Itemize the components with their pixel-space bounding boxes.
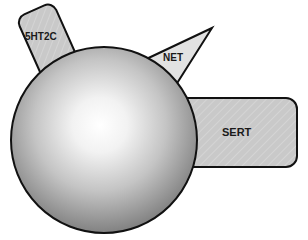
cell-sphere [11, 47, 197, 233]
diagram-canvas: SERT 5HT2C NET [0, 0, 308, 240]
diagram-svg: SERT 5HT2C NET [0, 0, 308, 240]
5ht2c-label: 5HT2C [25, 31, 57, 42]
sert-label: SERT [222, 126, 252, 138]
net-label: NET [163, 52, 183, 63]
